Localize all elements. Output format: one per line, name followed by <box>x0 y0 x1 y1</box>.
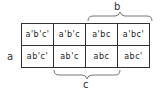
kmap-cell: abc <box>86 46 118 68</box>
kmap-cell: abc' <box>118 46 150 68</box>
kmap-row-a-prime: a'b'c' a'b'c a'bc a'bc' <box>22 24 150 46</box>
variable-label-c: c <box>83 79 89 90</box>
kmap-row-a: ab'c' ab'c abc abc' <box>22 46 150 68</box>
variable-label-a: a <box>7 51 13 62</box>
karnaugh-map-table: a'b'c' a'b'c a'bc a'bc' ab'c' ab'c abc a… <box>21 23 150 68</box>
variable-label-b: b <box>114 1 120 12</box>
kmap-cell: ab'c <box>54 46 86 68</box>
brace-b <box>87 12 153 22</box>
kmap-cell: a'b'c' <box>22 24 54 46</box>
kmap-cell: ab'c' <box>22 46 54 68</box>
kmap-cell: a'bc <box>86 24 118 46</box>
kmap-cell: a'b'c <box>54 24 86 46</box>
kmap-cell: a'bc' <box>118 24 150 46</box>
